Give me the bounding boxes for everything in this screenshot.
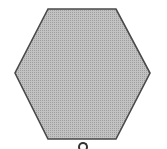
hexagon-shape (15, 9, 150, 139)
hexagon-diagram (0, 0, 167, 149)
partial-circle-mark (78, 142, 88, 149)
